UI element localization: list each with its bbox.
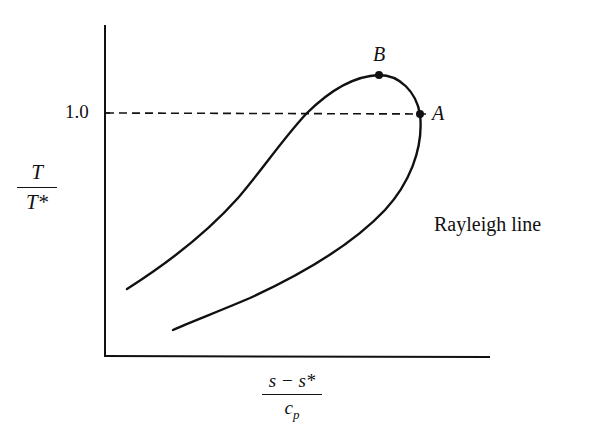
y-tick-label: 1.0 [65,101,89,123]
point-b-label: B [373,43,385,66]
y-label-denominator: T* [17,190,57,215]
x-label-subscript: p [293,407,300,422]
rayleigh-line-label: Rayleigh line [434,213,541,236]
point-a-label: A [432,102,444,125]
point-b-marker [375,71,383,79]
y-label-numerator: T [17,160,57,185]
x-label-denominator: cp [262,397,322,423]
x-label-numerator: s − s* [262,370,322,392]
reference-line-dashed [106,113,430,114]
point-a-marker [416,110,424,118]
x-label-c: c [285,397,293,418]
x-axis [104,356,490,357]
x-label-fraction-bar [262,394,322,395]
y-label-fraction-bar [17,187,57,188]
x-axis-label: s − s* cp [262,370,322,423]
y-axis-label: T T* [17,160,57,215]
